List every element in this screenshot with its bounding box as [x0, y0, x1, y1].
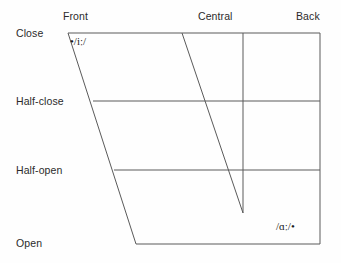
height-label-half-close: Half-close: [16, 95, 64, 107]
backness-label-back: Back: [296, 10, 320, 22]
backness-label-front: Front: [63, 10, 88, 22]
vowel-symbol-palm: /ɑː/•: [276, 220, 295, 232]
vowel-chart-figure: Front Central Back Close Half-close Half…: [0, 0, 341, 263]
trapezoid-left-edge: [68, 33, 136, 244]
vowel-symbol-fleece: •/iː/: [70, 35, 86, 47]
height-label-close: Close: [16, 27, 43, 39]
backness-line-front-central: [182, 33, 243, 213]
height-label-open: Open: [16, 237, 42, 249]
height-label-half-open: Half-open: [16, 164, 62, 176]
backness-label-central: Central: [198, 10, 233, 22]
